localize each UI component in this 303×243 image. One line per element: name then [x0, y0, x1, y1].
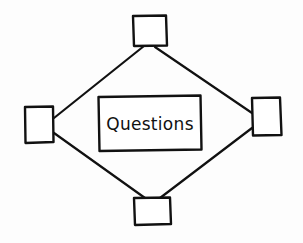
node-left[interactable] — [25, 107, 54, 144]
node-bottom[interactable] — [134, 198, 171, 226]
node-right[interactable] — [252, 98, 282, 136]
node-top[interactable] — [133, 16, 167, 47]
diagram-canvas: Questions — [0, 0, 303, 243]
center-label: Questions — [98, 96, 202, 152]
